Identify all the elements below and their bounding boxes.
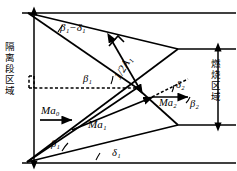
label-delta1-bottom: δ₁ bbox=[112, 148, 121, 159]
label-delta2: δ₂ bbox=[176, 80, 185, 91]
arc-delta1-bottom bbox=[96, 153, 100, 160]
label-beta1-bottom: β₁ bbox=[51, 139, 60, 150]
label-ma1: Ma₁ bbox=[88, 119, 107, 130]
shock-line-lower-long bbox=[27, 125, 178, 162]
arc-beta1-bottom bbox=[62, 143, 68, 151]
streamline-ma1 bbox=[72, 97, 153, 130]
angle-arcs bbox=[58, 25, 190, 160]
shock-line-upper-to-step bbox=[28, 13, 178, 49]
oblique-shock-schematic-figure: 隔离段区域 燃烧区域 β₁−δ₁ 1/2A₁ β₁ Ma₀ Ma₁ Ma₂ β₂… bbox=[0, 0, 237, 171]
dashed-reference-lines bbox=[29, 76, 188, 97]
diagram-canvas bbox=[0, 0, 237, 171]
arc-delta2 bbox=[172, 85, 174, 92]
arc-beta1-mid bbox=[111, 76, 113, 84]
label-ma2: Ma₂ bbox=[159, 98, 177, 109]
region-label-isolator: 隔离段区域 bbox=[4, 42, 14, 97]
label-beta1-mid: β₁ bbox=[83, 74, 92, 85]
right-angle-mark-icon bbox=[109, 36, 124, 46]
label-ma0: Ma₀ bbox=[41, 105, 60, 116]
label-beta2: β₂ bbox=[190, 99, 199, 110]
region-label-combustor: 燃烧区域 bbox=[210, 59, 220, 103]
label-beta1-minus-delta1: β₁−δ₁ bbox=[60, 22, 86, 33]
